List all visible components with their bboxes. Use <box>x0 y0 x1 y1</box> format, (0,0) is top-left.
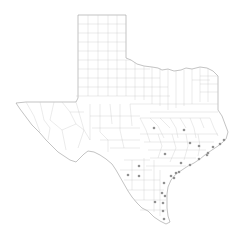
county-marker-dot <box>212 146 215 149</box>
county-marker-dot <box>198 145 201 148</box>
county-marker-dot <box>173 177 176 180</box>
county-marker-dot <box>154 201 157 204</box>
county-marker-dot <box>189 142 192 145</box>
county-marker-dot <box>138 165 141 168</box>
county-marker-dot <box>161 192 164 195</box>
county-marker-dot <box>175 172 178 175</box>
county-marker-dot <box>162 202 165 205</box>
county-marker-dot <box>163 218 166 221</box>
county-marker-dot <box>162 210 165 213</box>
county-marker-dot <box>164 153 167 156</box>
county-marker-dot <box>127 174 130 177</box>
county-marker-dot <box>170 175 173 178</box>
county-marker-dot <box>183 129 186 132</box>
county-marker-dot <box>207 152 210 155</box>
county-marker-dot <box>178 171 181 174</box>
county-marker-dot <box>189 164 192 167</box>
county-marker-dot <box>153 127 156 130</box>
county-marker-dot <box>138 175 141 178</box>
state-outline <box>16 15 228 224</box>
county-marker-dot <box>180 162 183 165</box>
county-marker-dot <box>163 182 166 185</box>
county-marker-dot <box>223 139 226 142</box>
county-marker-dot <box>198 158 201 161</box>
county-marker-dot <box>219 143 222 146</box>
texas-county-map <box>0 0 246 240</box>
county-marker-dot <box>164 195 167 198</box>
